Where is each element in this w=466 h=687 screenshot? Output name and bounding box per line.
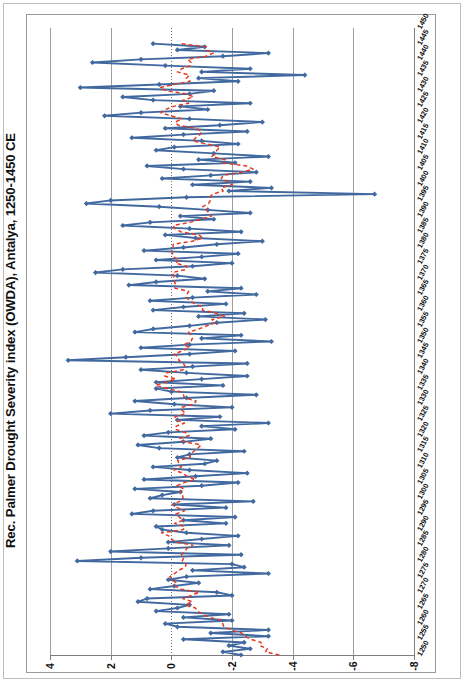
data-point-marker [245, 373, 250, 378]
data-point-marker [223, 521, 228, 526]
data-point-marker [242, 640, 247, 645]
data-point-marker [220, 54, 225, 59]
data-point-marker [266, 420, 271, 425]
data-point-marker [175, 624, 180, 629]
data-point-marker [239, 286, 244, 291]
data-point-marker [172, 145, 177, 150]
data-point-marker [184, 195, 189, 200]
data-point-marker [217, 414, 222, 419]
data-point-marker [138, 110, 143, 115]
data-point-marker [235, 141, 240, 146]
x-tick-label: -6 [347, 649, 359, 683]
data-point-marker [190, 364, 195, 369]
data-point-marker [151, 464, 156, 469]
data-point-marker [226, 643, 231, 648]
data-point-marker [144, 163, 149, 168]
data-point-marker [248, 646, 253, 651]
data-point-marker [196, 580, 201, 585]
data-point-marker [148, 587, 153, 592]
data-point-marker [239, 229, 244, 234]
data-point-marker [254, 392, 259, 397]
data-point-marker [154, 609, 159, 614]
data-point-marker [266, 627, 271, 632]
data-point-marker [199, 536, 204, 541]
data-point-marker [242, 449, 247, 454]
data-point-marker [251, 499, 256, 504]
data-point-marker [223, 505, 228, 510]
data-point-marker [223, 301, 228, 306]
data-point-marker [144, 596, 149, 601]
data-point-marker [205, 289, 210, 294]
x-tick-label: -2 [226, 649, 238, 683]
data-point-marker [135, 442, 140, 447]
data-point-marker [75, 558, 80, 563]
data-point-marker [181, 637, 186, 642]
data-point-marker [154, 257, 159, 262]
data-point-marker [202, 276, 207, 281]
data-point-marker [190, 295, 195, 300]
data-point-marker [151, 98, 156, 103]
data-point-marker [184, 370, 189, 375]
data-point-marker [138, 57, 143, 62]
data-point-marker [211, 217, 216, 222]
data-point-marker [135, 599, 140, 604]
data-point-marker [187, 351, 192, 356]
data-point-marker [163, 232, 168, 237]
data-point-marker [229, 405, 234, 410]
data-point-marker [196, 314, 201, 319]
data-point-marker [151, 308, 156, 313]
data-point-marker [266, 634, 271, 639]
data-point-marker [229, 561, 234, 566]
data-point-marker [239, 333, 244, 338]
data-point-marker [245, 471, 250, 476]
data-point-marker [129, 511, 134, 516]
data-point-marker [163, 126, 168, 131]
data-point-marker [120, 94, 125, 99]
data-point-marker [151, 41, 156, 46]
data-point-marker [254, 170, 259, 175]
data-point-marker [187, 323, 192, 328]
data-point-marker [266, 571, 271, 576]
data-point-marker [214, 242, 219, 247]
data-point-marker [205, 107, 210, 112]
data-point-marker [248, 210, 253, 215]
data-point-marker [166, 540, 171, 545]
data-point-marker [181, 132, 186, 137]
data-point-marker [199, 336, 204, 341]
data-point-marker [260, 119, 265, 124]
data-point-marker [220, 649, 225, 654]
data-point-marker [242, 311, 247, 316]
data-point-marker [157, 204, 162, 209]
data-point-marker [181, 615, 186, 620]
data-point-marker [178, 214, 183, 219]
data-point-marker [132, 329, 137, 334]
data-point-marker [141, 477, 146, 482]
data-point-marker [248, 101, 253, 106]
data-point-marker [84, 201, 89, 206]
data-point-marker [138, 367, 143, 372]
data-point-marker [66, 358, 71, 363]
data-point-marker [211, 88, 216, 93]
data-point-marker [175, 605, 180, 610]
data-point-marker [123, 355, 128, 360]
data-point-marker [226, 188, 231, 193]
data-point-marker [187, 226, 192, 231]
data-point-marker [242, 565, 247, 570]
x-tick-label: -4 [287, 649, 299, 683]
data-point-marker [148, 408, 153, 413]
data-point-marker [187, 467, 192, 472]
data-point-marker [269, 339, 274, 344]
data-point-marker [248, 66, 253, 71]
data-point-marker [208, 630, 213, 635]
data-point-marker [196, 76, 201, 81]
data-point-marker [102, 113, 107, 118]
data-point-marker [181, 304, 186, 309]
data-point-marker [138, 555, 143, 560]
data-point-marker [232, 427, 237, 432]
data-point-marker [157, 445, 162, 450]
data-point-marker [148, 220, 153, 225]
data-point-marker [266, 50, 271, 55]
data-point-marker [302, 72, 307, 77]
data-point-marker [220, 383, 225, 388]
data-point-marker [214, 458, 219, 463]
